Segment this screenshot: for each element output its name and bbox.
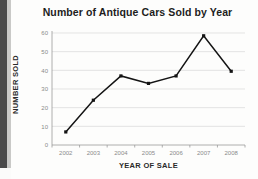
y-tick-label: 30 [41, 86, 48, 92]
data-point-marker [92, 99, 95, 102]
axis-lines-group [52, 31, 245, 145]
data-point-marker [119, 74, 122, 77]
x-tick-label: 2006 [169, 150, 183, 156]
y-tick-label: 10 [41, 124, 48, 130]
y-tick-label: 40 [41, 68, 48, 74]
data-point-marker [147, 82, 150, 85]
x-tick-label: 2007 [197, 150, 211, 156]
chart-plot-area: 0102030405060 20022003200420052006200720… [0, 0, 258, 179]
x-tick-labels-group: 2002200320042005200620072008 [59, 150, 238, 156]
gridlines-group [52, 33, 245, 126]
data-point-marker [174, 74, 177, 77]
data-point-markers-group [64, 34, 233, 133]
y-tick-labels-group: 0102030405060 [41, 30, 48, 148]
data-point-marker [230, 70, 233, 73]
x-tick-label: 2003 [87, 150, 101, 156]
x-tick-label: 2008 [225, 150, 239, 156]
y-tick-label: 60 [41, 30, 48, 36]
chart-page: Number of Antique Cars Sold by Year NUMB… [0, 0, 258, 179]
y-tick-label: 0 [45, 142, 49, 148]
x-tick-label: 2002 [59, 150, 73, 156]
x-tick-label: 2004 [114, 150, 128, 156]
x-tick-label: 2005 [142, 150, 156, 156]
y-tick-label: 20 [41, 105, 48, 111]
data-point-marker [64, 130, 67, 133]
data-point-marker [202, 34, 205, 37]
y-tick-label: 50 [41, 49, 48, 55]
